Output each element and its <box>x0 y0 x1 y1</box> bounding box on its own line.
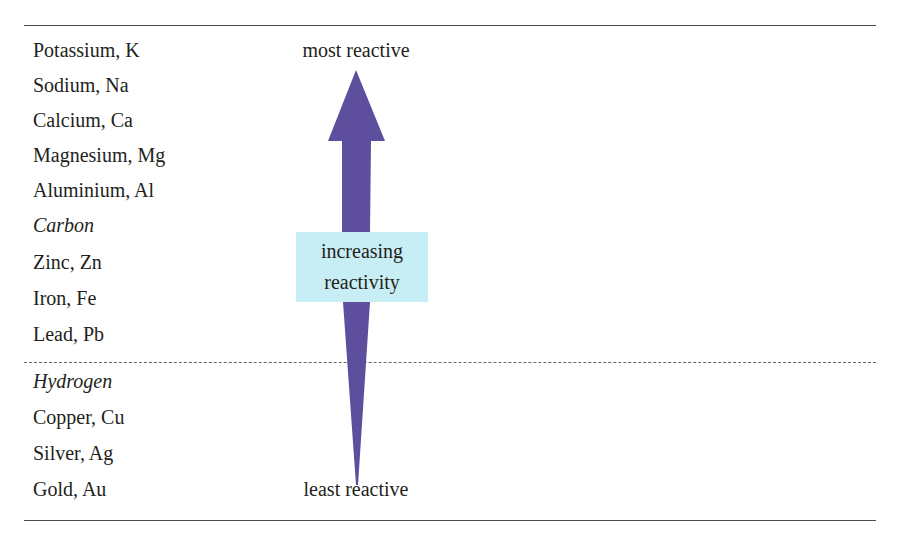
callout-line-1: increasing <box>321 236 403 267</box>
increasing-reactivity-box: increasing reactivity <box>296 232 428 302</box>
reactivity-arrow-icon <box>0 0 899 536</box>
callout-line-2: reactivity <box>324 267 400 298</box>
bottom-rule <box>24 520 876 521</box>
